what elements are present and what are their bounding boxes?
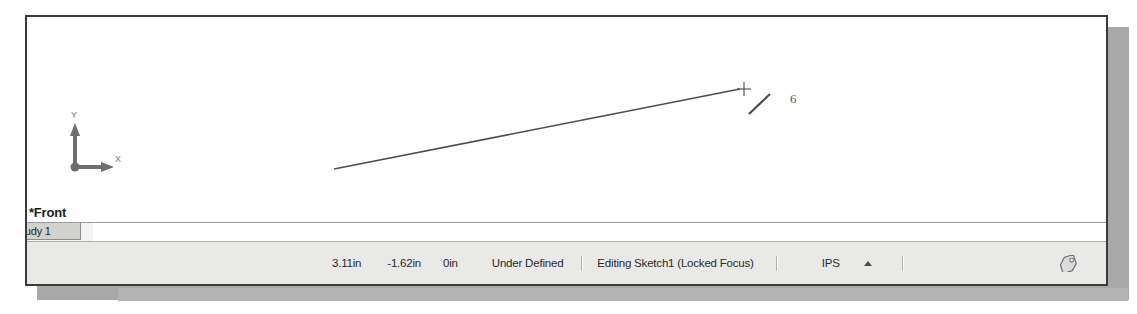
tab-study-1[interactable]: tudy 1 — [25, 223, 81, 240]
origin-triad: Y X — [53, 112, 123, 182]
window-drop-shadow-lower — [118, 288, 1128, 301]
triad-x-label: X — [115, 154, 121, 164]
triad-y-label: Y — [71, 110, 77, 120]
status-sketch-state: Under Defined — [492, 253, 564, 274]
status-separator-1 — [581, 256, 583, 271]
status-bar: 3.11in -1.62in 0in Under Defined Editing… — [27, 241, 1106, 284]
tag-icon-glyph — [1059, 255, 1078, 272]
status-units[interactable]: IPS — [822, 253, 840, 274]
page-root: 6 Y X *Front — [0, 0, 1137, 314]
document-tab-strip: tudy 1 — [27, 222, 1106, 241]
status-coordinate-y: -1.62in — [387, 253, 421, 274]
sketch-line-1[interactable] — [334, 89, 740, 169]
sketch-geometry-layer — [27, 17, 1106, 222]
triangle-up-icon[interactable] — [864, 253, 872, 274]
cursor-pencil-icon — [749, 94, 770, 114]
sketch-endpoint[interactable] — [737, 82, 751, 96]
tag-icon[interactable] — [1059, 253, 1078, 274]
tab-strip-filler — [93, 223, 1106, 242]
status-coordinate-z: 0in — [443, 253, 458, 274]
dimension-label[interactable]: 6 — [790, 91, 797, 107]
status-coordinate-x: 3.11in — [332, 253, 361, 274]
cad-application-window: 6 Y X *Front — [25, 15, 1108, 286]
status-separator-2 — [776, 256, 778, 271]
status-edit-state: Editing Sketch1 (Locked Focus) — [597, 253, 753, 274]
graphics-area[interactable]: 6 Y X *Front — [27, 17, 1106, 222]
triad-arrows-icon — [53, 112, 123, 182]
status-separator-3 — [902, 256, 904, 271]
view-orientation-label: *Front — [29, 205, 66, 220]
